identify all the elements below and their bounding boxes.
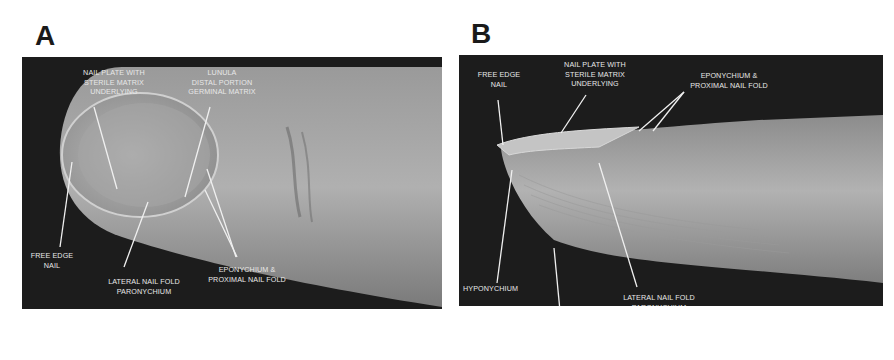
label-lateral-fold: LATERAL NAIL FOLD PARONYCHIUM: [94, 277, 194, 296]
label-eponychium: EPONYCHIUM & PROXIMAL NAIL FOLD: [674, 71, 784, 90]
label-free-edge: FREE EDGE NAIL: [469, 70, 529, 89]
panel-b-letter: B: [471, 20, 491, 48]
label-free-edge: FREE EDGE NAIL: [22, 251, 82, 270]
panel-a-letter: A: [35, 22, 55, 50]
panel-b-photo: FREE EDGE NAIL NAIL PLATE WITH STERILE M…: [459, 55, 883, 306]
label-lunula: LUNULA DISTAL PORTION GERMINAL MATRIX: [172, 68, 272, 97]
label-eponychium: EPONYCHIUM & PROXIMAL NAIL FOLD: [192, 265, 302, 284]
label-nail-plate: NAIL PLATE WITH STERILE MATRIX UNDERLYIN…: [64, 68, 164, 97]
label-lateral-fold: LATERAL NAIL FOLD PARONYCHIUM: [609, 293, 709, 306]
finger-lateral-illustration: [459, 55, 883, 306]
label-nail-plate: NAIL PLATE WITH STERILE MATRIX UNDERLYIN…: [545, 60, 645, 89]
label-hyponychium: HYPONYCHIUM: [463, 284, 533, 294]
panel-a-photo: NAIL PLATE WITH STERILE MATRIX UNDERLYIN…: [22, 57, 442, 309]
